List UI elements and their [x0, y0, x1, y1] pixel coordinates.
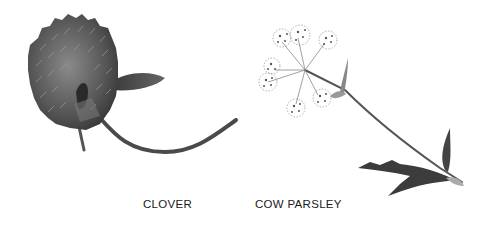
cow-parsley-label: COW PARSLEY — [255, 198, 342, 210]
botanical-illustration: CLOVER COW PARSLEY — [0, 0, 496, 228]
clover-label: CLOVER — [143, 198, 192, 210]
specimens-drawing — [0, 0, 496, 228]
clover-specimen — [28, 14, 236, 152]
cow-parsley-specimen — [259, 25, 464, 196]
